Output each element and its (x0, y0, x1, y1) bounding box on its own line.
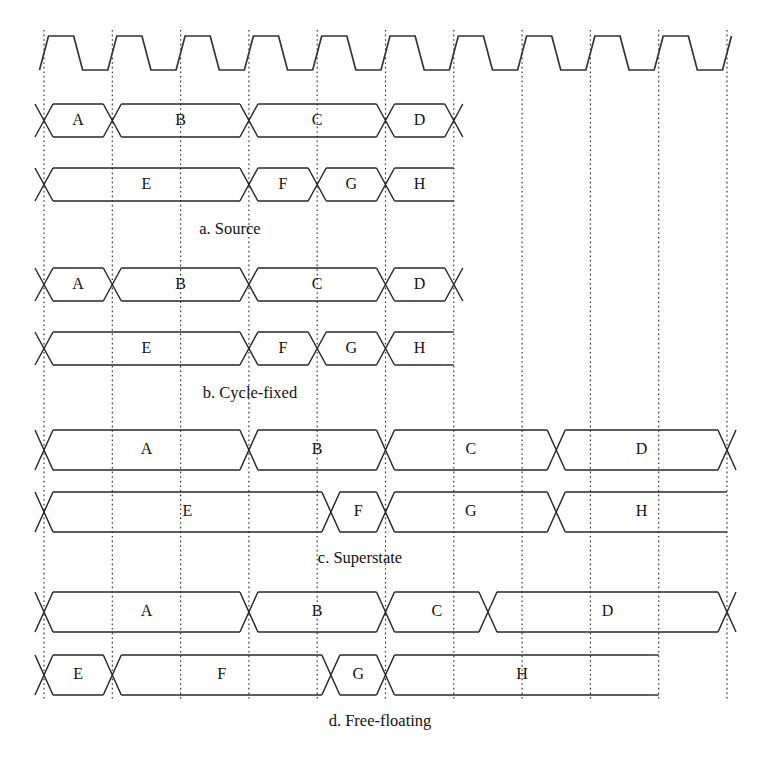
bus-segment-label: A (72, 275, 84, 292)
bus-segment-label: C (431, 602, 442, 619)
section-caption-c: c. Superstate (318, 548, 402, 567)
section-c-row-lower: EFGH (35, 492, 727, 532)
bus-segment-label: F (354, 502, 363, 519)
bus-transition-crossing (547, 430, 565, 470)
bus-transition-crossing (322, 655, 340, 695)
bus-transition-crossing (377, 332, 395, 365)
bus-transition-crossing (240, 268, 258, 301)
bus-segment-label: B (312, 602, 323, 619)
bus-segment-label: F (279, 175, 288, 192)
timing-diagram-figure: ABCDEFGHABCDEFGHABCDEFGHABCDEFGH a. Sour… (0, 0, 761, 761)
bus-segment-label: C (466, 440, 477, 457)
bus-segment-label: G (352, 665, 364, 682)
bus-transition-crossing (479, 592, 497, 632)
bus-open-crossing (35, 268, 53, 301)
bus-segment-label: F (217, 665, 226, 682)
section-caption-b: b. Cycle-fixed (203, 383, 298, 402)
bus-segment-label: G (346, 175, 358, 192)
bus-segment-label: H (516, 665, 528, 682)
bus-segment-label: G (465, 502, 477, 519)
bus-segment-label: A (141, 440, 153, 457)
bus-segment-label: A (72, 111, 84, 128)
bus-segment-label: E (73, 665, 83, 682)
bus-transition-crossing (240, 592, 258, 632)
bus-segment-label: H (414, 339, 426, 356)
clock-waveform-group (40, 36, 732, 70)
bus-segment-label: C (312, 111, 323, 128)
bus-segment-label: D (414, 111, 426, 128)
bus-transition-crossing (322, 492, 340, 532)
section-a-row-lower: EFGH (35, 168, 454, 201)
bus-segment-label: H (636, 502, 648, 519)
bus-close-crossing (445, 268, 463, 301)
bus-segment-label: B (175, 111, 186, 128)
section-b-row-lower: EFGH (35, 332, 454, 365)
bus-segment-label: E (183, 502, 193, 519)
bus-segment-label: B (175, 275, 186, 292)
bus-segment-label: E (142, 175, 152, 192)
bus-transition-crossing (547, 492, 565, 532)
bus-segment-label: G (346, 339, 358, 356)
bus-close-crossing (718, 592, 736, 632)
bus-segment-label: D (414, 275, 426, 292)
bus-transition-crossing (377, 268, 395, 301)
bus-open-crossing (35, 592, 53, 632)
bus-segment-label: D (636, 440, 648, 457)
bus-segment-label: A (141, 602, 153, 619)
section-caption-a: a. Source (199, 219, 260, 238)
section-d-row-upper: ABCD (35, 592, 736, 632)
timing-diagram-canvas: ABCDEFGHABCDEFGHABCDEFGHABCDEFGH a. Sour… (0, 0, 761, 761)
bus-segment-label: F (279, 339, 288, 356)
bus-segment-label: H (414, 175, 426, 192)
bus-transition-crossing (308, 332, 326, 365)
bus-transition-crossing (103, 268, 121, 301)
bus-transition-crossing (377, 492, 395, 532)
bus-transition-crossing (377, 592, 395, 632)
bus-transition-crossing (240, 332, 258, 365)
section-b-row-upper: ABCD (35, 268, 463, 301)
bus-segment-label: C (312, 275, 323, 292)
bus-segment-label: D (602, 602, 614, 619)
bus-open-crossing (35, 332, 53, 365)
section-d-row-lower: EFGH (35, 655, 659, 695)
bus-segment-label: B (312, 440, 323, 457)
clock-waveform-path (40, 36, 732, 70)
section-captions-group: a. Sourceb. Cycle-fixedc. Superstated. F… (199, 219, 431, 730)
section-caption-d: d. Free-floating (329, 711, 432, 730)
bus-open-crossing (35, 492, 53, 532)
bus-segment-label: E (142, 339, 152, 356)
